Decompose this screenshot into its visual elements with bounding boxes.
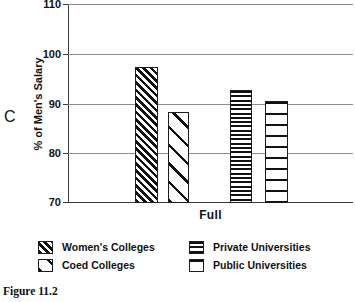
figure-caption: Figure 11.2: [3, 285, 58, 297]
legend-label-coed-colleges: Coed Colleges: [62, 260, 135, 271]
gridline-70-baseline: 70: [68, 202, 353, 203]
y-tick-70: [63, 202, 68, 203]
legend-item-womens-colleges: Women's Colleges: [38, 241, 155, 254]
gridline-90: 90: [68, 104, 353, 105]
legend-label-womens-colleges: Women's Colleges: [62, 242, 155, 253]
gridline-80: 80: [68, 153, 353, 154]
legend-label-public-universities: Public Universities: [213, 260, 307, 271]
y-tick-90: [63, 104, 68, 105]
y-tick-110: [63, 4, 68, 5]
legend-swatch-public-universities: [189, 259, 204, 272]
panel-letter: C: [4, 108, 16, 126]
legend-swatch-private-universities: [189, 241, 204, 254]
gridline-110: 110: [68, 4, 353, 5]
bar-womens-colleges: [135, 67, 158, 203]
figure-container: C % of Men's Salary 110 100 90 80 70: [0, 0, 355, 302]
legend-item-private-universities: Private Universities: [189, 241, 310, 254]
legend-item-coed-colleges: Coed Colleges: [38, 259, 135, 272]
bar-coed-colleges: [168, 112, 189, 203]
chart-legend: Women's Colleges Coed Colleges Private U…: [38, 241, 338, 277]
y-tick-100: [63, 54, 68, 55]
gridline-100: 100: [68, 54, 353, 55]
legend-label-private-universities: Private Universities: [213, 242, 310, 253]
y-tick-label-90: 90: [49, 98, 61, 110]
plot-area: 110 100 90 80 70: [68, 4, 353, 203]
legend-swatch-coed-colleges: [38, 259, 53, 272]
legend-swatch-womens-colleges: [38, 241, 53, 254]
legend-item-public-universities: Public Universities: [189, 259, 307, 272]
x-axis-title: Full: [68, 208, 353, 222]
y-tick-label-110: 110: [43, 0, 61, 10]
bar-private-universities: [230, 90, 252, 203]
bar-public-universities: [265, 101, 288, 203]
y-tick-label-100: 100: [43, 48, 61, 60]
y-tick-label-70: 70: [49, 196, 61, 208]
y-tick-label-80: 80: [49, 147, 61, 159]
y-tick-80: [63, 153, 68, 154]
